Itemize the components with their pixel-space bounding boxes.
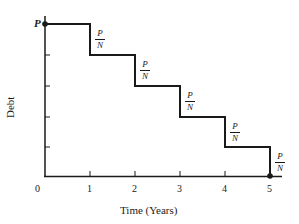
annotation-denominator: N <box>140 71 150 81</box>
y-axis-title: Debt <box>4 97 16 118</box>
x-tick-label-0: 0 <box>35 184 40 194</box>
x-axis-title: Time (Years) <box>120 204 177 216</box>
annotation-denominator: N <box>95 40 105 50</box>
annotation-numerator: P <box>140 60 150 71</box>
x-tick-label-3: 3 <box>177 184 182 194</box>
annotation-denominator: N <box>230 133 240 143</box>
step-annotation-1: P N <box>95 29 105 50</box>
debt-step-line <box>45 24 270 176</box>
x-tick-label-2: 2 <box>132 184 137 194</box>
annotation-numerator: P <box>185 91 195 102</box>
annotation-numerator: P <box>275 152 285 163</box>
debt-step-chart <box>0 0 299 224</box>
annotation-denominator: N <box>185 102 195 112</box>
end-point-marker <box>267 173 273 179</box>
x-tick-label-1: 1 <box>87 184 92 194</box>
x-tick-label-4: 4 <box>222 184 227 194</box>
step-annotation-3: P N <box>185 91 195 112</box>
start-point-label: P <box>34 17 41 29</box>
step-annotation-2: P N <box>140 60 150 81</box>
step-annotation-5: P N <box>275 152 285 173</box>
step-annotation-4: P N <box>230 122 240 143</box>
x-ticks <box>90 171 225 176</box>
annotation-denominator: N <box>275 163 285 173</box>
annotation-numerator: P <box>95 29 105 40</box>
annotation-numerator: P <box>230 122 240 133</box>
start-point-marker <box>42 21 48 27</box>
x-tick-label-5: 5 <box>267 184 272 194</box>
